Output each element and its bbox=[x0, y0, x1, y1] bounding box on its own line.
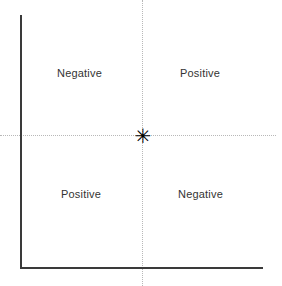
quadrant-label-bottom-left: Positive bbox=[61, 188, 101, 200]
quadrant-label-top-left: Negative bbox=[57, 67, 102, 79]
origin-star-icon: ✳ bbox=[133, 126, 153, 146]
quadrant-label-bottom-right: Negative bbox=[178, 188, 223, 200]
x-axis-line bbox=[20, 267, 263, 269]
y-axis-line bbox=[20, 15, 22, 269]
quadrant-diagram: ✳ Negative Positive Positive Negative bbox=[0, 0, 282, 286]
quadrant-label-top-right: Positive bbox=[180, 67, 220, 79]
